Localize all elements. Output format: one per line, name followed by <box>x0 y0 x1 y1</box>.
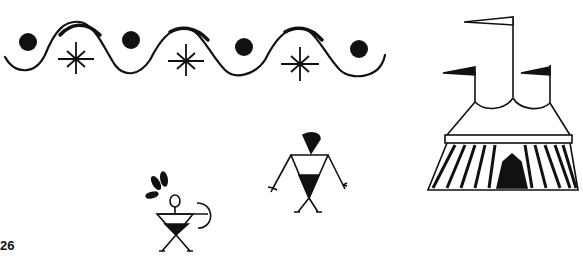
page-number: 26 <box>0 238 14 253</box>
star-icon <box>58 42 319 81</box>
circus-tent <box>428 17 578 190</box>
archer-figure <box>146 172 211 251</box>
standing-figure <box>268 133 347 212</box>
clipart-canvas <box>0 0 583 256</box>
